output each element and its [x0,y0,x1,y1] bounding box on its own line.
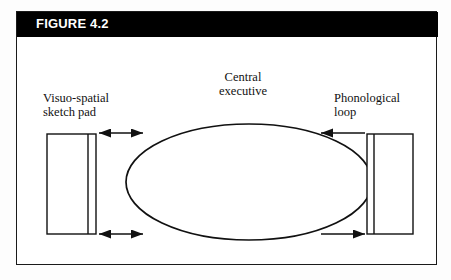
central-executive-label: Central executive [188,70,298,98]
figure-screenshot: FIGURE 4.2 [0,0,451,280]
figure-frame: FIGURE 4.2 [16,11,437,265]
phonological-loop-label: Phonological loop [334,91,400,119]
central-executive-ellipse [126,124,372,240]
phonological-loop-box [367,134,413,234]
diagram-canvas: Visuo-spatial sketch pad Central executi… [17,37,438,265]
visuospatial-sketchpad-box [47,134,96,234]
visuospatial-sketchpad-label: Visuo-spatial sketch pad [43,91,109,119]
figure-title-bar: FIGURE 4.2 [17,12,438,37]
figure-title: FIGURE 4.2 [36,16,109,31]
